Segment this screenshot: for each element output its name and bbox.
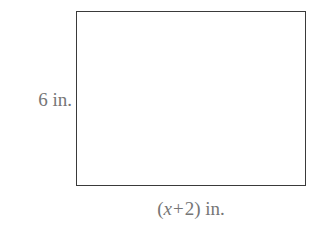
geometry-figure: 6 in. (x+2) in.	[0, 0, 316, 234]
height-dimension-label: 6 in.	[0, 90, 72, 109]
width-constant: 2	[185, 198, 195, 219]
width-operator: +	[172, 198, 185, 219]
width-dimension-label: (x+2) in.	[76, 199, 306, 218]
rectangle-shape	[76, 11, 306, 186]
height-label-text: 6 in.	[38, 89, 72, 110]
width-variable: x	[164, 198, 172, 219]
width-unit: in.	[205, 198, 225, 219]
